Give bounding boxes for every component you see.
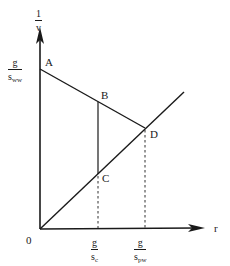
x-tick-numerator: g: [91, 238, 98, 249]
point-label-c: C: [102, 173, 109, 184]
y-tick-denominator-sub: ww: [12, 76, 22, 84]
x-axis-label: r: [214, 223, 218, 234]
x-tick-denominator: spw: [134, 250, 146, 264]
line-a-d: [40, 69, 145, 128]
diagram: 1 v g sww A B C D 0 r g sc g spw: [0, 0, 230, 266]
origin-label: 0: [26, 235, 32, 246]
y-axis-label: 1 v: [35, 9, 42, 33]
x-tick-denominator-sub: pw: [138, 256, 147, 264]
point-label-d: D: [150, 129, 158, 140]
y-axis-label-numerator: 1: [35, 9, 42, 20]
y-tick-denominator: sww: [8, 70, 22, 84]
diagram-canvas: [0, 0, 230, 266]
y-tick-numerator: g: [12, 58, 19, 69]
y-tick-g-over-sww: g sww: [8, 58, 22, 84]
x-tick-g-over-spw: g spw: [134, 238, 146, 264]
x-tick-denominator-sub: c: [95, 256, 98, 264]
x-axis: [40, 228, 196, 229]
line-origin-ray: [40, 92, 184, 229]
x-tick-denominator: sc: [91, 250, 98, 264]
y-axis-label-denominator: v: [36, 21, 41, 33]
x-tick-numerator: g: [137, 238, 144, 249]
x-tick-g-over-sc: g sc: [91, 238, 98, 264]
point-label-a: A: [45, 57, 53, 68]
point-label-b: B: [101, 90, 108, 101]
